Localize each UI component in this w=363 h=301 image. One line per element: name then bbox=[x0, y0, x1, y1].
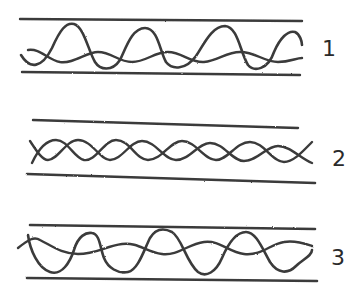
panel-2-number-label: 2 bbox=[332, 148, 346, 170]
panel-1 bbox=[20, 19, 302, 75]
panel-3-bottom-line bbox=[27, 278, 317, 281]
panel-2-bottom-line bbox=[27, 174, 315, 183]
panel-3-number-label: 3 bbox=[331, 247, 345, 269]
panel-2 bbox=[27, 120, 315, 183]
panel-3-large-wave bbox=[28, 230, 312, 275]
panel-3-top-line bbox=[30, 225, 315, 229]
wave-sketch-diagram bbox=[0, 0, 363, 301]
panel-1-number-label: 1 bbox=[322, 38, 336, 60]
panel-3-small-wave bbox=[18, 238, 312, 254]
panel-1-top-line bbox=[20, 19, 302, 21]
panel-1-bottom-line bbox=[22, 72, 300, 75]
panel-2-top-line bbox=[33, 120, 298, 128]
panel-3 bbox=[18, 225, 317, 281]
